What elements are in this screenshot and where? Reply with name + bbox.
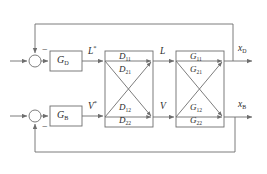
summing-junction-bottom (29, 110, 41, 122)
controller-gb-label: GB (57, 110, 68, 120)
block-diagram-svg (0, 0, 267, 174)
controller-gd-label: GD (57, 55, 69, 65)
entry-g22-label: G22 (190, 116, 202, 125)
signal-l-star-label: L* (88, 47, 97, 57)
output-xb-label: xB (238, 100, 246, 110)
signal-l-label: L (160, 47, 165, 57)
entry-g21-label: G21 (190, 65, 202, 74)
signal-v-star-label: V* (88, 102, 97, 112)
entry-g12-label: G12 (190, 103, 202, 112)
block-diagram-canvas: GD GB − − D11 D21 D12 D22 G11 G21 G12 G2… (0, 0, 267, 174)
minus-sign-top: − (42, 45, 48, 55)
summing-junction-top (29, 55, 41, 67)
entry-d22-label: D22 (119, 116, 131, 125)
minus-sign-bottom: − (42, 122, 48, 132)
entry-d21-label: D21 (119, 65, 131, 74)
entry-d12-label: D12 (119, 103, 131, 112)
signal-v-label: V (160, 102, 166, 112)
entry-d11-label: D11 (119, 52, 131, 61)
entry-g11-label: G11 (190, 52, 202, 61)
output-xd-label: xD (238, 44, 246, 54)
